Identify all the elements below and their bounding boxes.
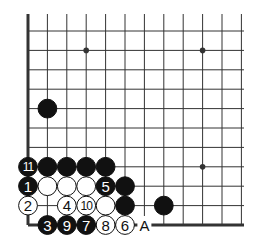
- move-number: 7: [82, 217, 90, 234]
- go-board: A3978624101511: [0, 0, 264, 246]
- black-stone: [96, 157, 115, 176]
- star-point: [83, 48, 89, 54]
- move-number: 3: [43, 217, 51, 234]
- white-stone: [57, 177, 76, 196]
- star-point: [200, 164, 206, 170]
- marker-label-A: A: [139, 217, 149, 234]
- move-number: 2: [24, 197, 32, 214]
- move-number: 11: [23, 160, 35, 174]
- move-number: 1: [24, 178, 32, 195]
- move-number: 5: [101, 178, 109, 195]
- move-number: 8: [101, 217, 109, 234]
- black-stone: [116, 196, 135, 215]
- white-stone: [38, 177, 57, 196]
- black-stone: [38, 157, 57, 176]
- white-stone: [77, 177, 96, 196]
- black-stone: [57, 157, 76, 176]
- move-number: 10: [81, 199, 94, 213]
- black-stone: [77, 157, 96, 176]
- black-stone: [154, 196, 173, 215]
- move-number: 9: [63, 217, 71, 234]
- black-stone: [38, 99, 57, 118]
- move-number: 4: [63, 197, 71, 214]
- star-point: [200, 48, 206, 54]
- move-number: 6: [121, 217, 129, 234]
- black-stone: [116, 177, 135, 196]
- white-stone: [96, 196, 115, 215]
